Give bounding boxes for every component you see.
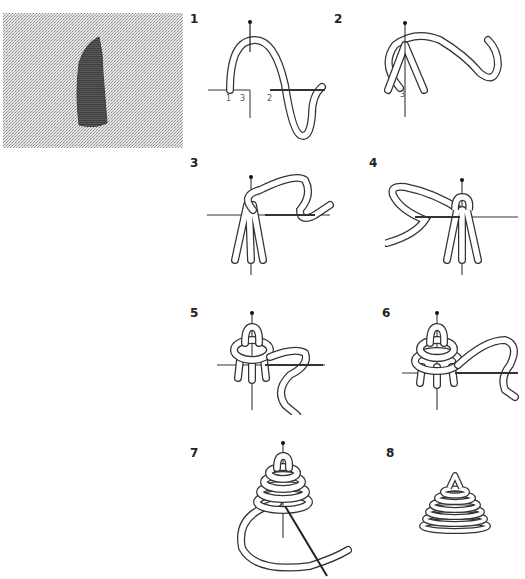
label-1: 1: [226, 94, 231, 103]
step-6-figure: [400, 305, 525, 415]
step-number-4: 4: [369, 156, 377, 170]
step-number-5: 5: [190, 306, 198, 320]
label-2: 2: [267, 94, 272, 103]
step-number-7: 7: [190, 446, 198, 460]
step-5-figure: [215, 305, 330, 415]
step-3-figure: [205, 165, 340, 280]
label-3: 3: [400, 90, 405, 99]
step-number-2: 2: [334, 12, 342, 26]
step-number-3: 3: [190, 156, 198, 170]
label-3: 3: [240, 94, 245, 103]
step-2-figure: 3: [380, 15, 520, 125]
step-number-6: 6: [382, 306, 390, 320]
step-1-figure: 1 3 2: [200, 15, 330, 150]
step-7-figure: [230, 438, 360, 578]
step-8-figure: [415, 470, 495, 535]
step-number-8: 8: [386, 446, 394, 460]
step-4-figure: [385, 165, 520, 280]
step-number-1: 1: [190, 12, 198, 26]
finished-stitch-photo: [3, 13, 183, 148]
